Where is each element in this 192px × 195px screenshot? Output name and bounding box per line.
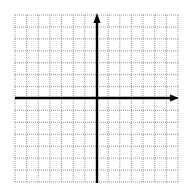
- coordinate-plane: [0, 0, 192, 195]
- y-axis-arrow-icon: [94, 13, 101, 23]
